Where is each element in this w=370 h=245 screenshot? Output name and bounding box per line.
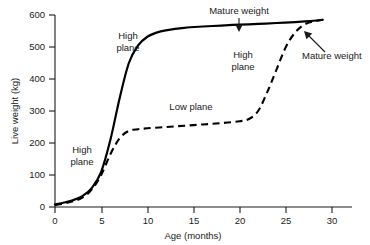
- high-plane-upper-label-line2: plane: [116, 42, 139, 53]
- y-tick-label-100: 100: [29, 169, 45, 180]
- series-low-plane-curve: [55, 20, 323, 205]
- y-tick-label-0: 0: [40, 201, 45, 212]
- x-tick-label-15: 15: [189, 215, 200, 226]
- y-tick-label-500: 500: [29, 41, 45, 52]
- x-tick-label-20: 20: [235, 215, 246, 226]
- annotation-high-plane-upper: High plane: [116, 30, 139, 53]
- y-tick-label-300: 300: [29, 105, 45, 116]
- high-plane-left-label-line1: High: [72, 144, 92, 155]
- low-plane-label: Low plane: [169, 101, 212, 112]
- high-plane-right-label-line1: High: [233, 49, 253, 60]
- y-tick-label-200: 200: [29, 137, 45, 148]
- x-tick-label-30: 30: [327, 215, 338, 226]
- annotation-high-plane-right: High plane: [231, 49, 254, 72]
- y-tick-label-600: 600: [29, 9, 45, 20]
- annotation-high-plane-left: High plane: [70, 144, 93, 167]
- x-axis-ticks: [55, 207, 332, 213]
- x-tick-label-25: 25: [281, 215, 292, 226]
- x-tick-label-0: 0: [52, 215, 57, 226]
- y-axis-ticks: [49, 15, 55, 207]
- annotation-mature-weight-dashed: Mature weight: [302, 31, 362, 61]
- annotation-mature-weight-solid: Mature weight: [209, 5, 269, 32]
- mature-weight-solid-label: Mature weight: [209, 5, 269, 16]
- mature-weight-solid-arrowhead-icon: [236, 25, 243, 32]
- x-tick-label-5: 5: [99, 215, 104, 226]
- y-tick-label-400: 400: [29, 73, 45, 84]
- mature-weight-dashed-label: Mature weight: [302, 50, 362, 61]
- y-axis-tick-labels: 0 100 200 300 400 500 600: [29, 9, 45, 212]
- live-weight-growth-chart: 0 100 200 300 400 500 600 0 5 10 15 20 2…: [0, 0, 370, 245]
- x-axis-tick-labels: 0 5 10 15 20 25 30: [52, 215, 337, 226]
- chart-canvas: 0 100 200 300 400 500 600 0 5 10 15 20 2…: [0, 0, 370, 245]
- x-axis-title: Age (months): [164, 230, 221, 241]
- high-plane-left-label-line2: plane: [70, 156, 93, 167]
- y-axis-title: Live weight (kg): [9, 78, 20, 145]
- high-plane-upper-label-line1: High: [118, 30, 138, 41]
- series-high-plane-curve: [55, 20, 323, 205]
- x-tick-label-10: 10: [143, 215, 154, 226]
- high-plane-right-label-line2: plane: [231, 61, 254, 72]
